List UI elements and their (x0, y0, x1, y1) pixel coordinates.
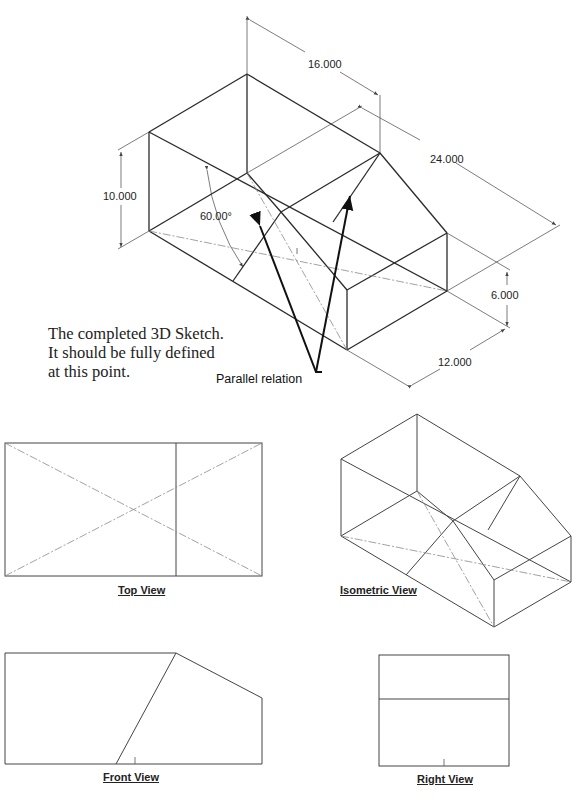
front-view-drawing (5, 653, 262, 764)
right-view-label: Right View (417, 773, 473, 785)
parallel-relation-callout: Parallel relation (216, 372, 302, 386)
caption-line-3: at this point. (48, 362, 224, 381)
isometric-view-label: Isometric View (340, 584, 417, 596)
caption-line-2: It should be fully defined (48, 343, 224, 362)
dimension-10: 10.000 (103, 190, 137, 202)
top-view-drawing (5, 443, 262, 576)
dimension-angle: 60.00° (200, 210, 232, 222)
drawing-canvas: 16.000 24.000 10.000 6.000 12.000 60.00° (0, 0, 584, 802)
dimension-6: 6.000 (491, 289, 519, 301)
dimension-12: 12.000 (438, 356, 472, 368)
right-view-drawing (379, 655, 509, 766)
dimension-24: 24.000 (430, 153, 464, 165)
top-view-label: Top View (118, 584, 165, 596)
dimension-16: 16.000 (308, 58, 342, 70)
caption-line-1: The completed 3D Sketch. (48, 324, 224, 343)
front-view-label: Front View (103, 771, 159, 783)
sketch-caption: The completed 3D Sketch. It should be fu… (48, 324, 224, 381)
